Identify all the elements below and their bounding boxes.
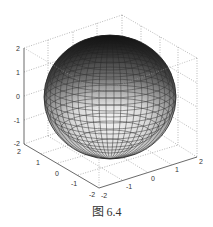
svg-text:-2: -2 [89, 191, 95, 198]
svg-text:-2: -2 [101, 192, 107, 199]
y-axis-ticks: 2 1 0 -1 -2 [17, 148, 95, 198]
svg-text:0: 0 [151, 175, 155, 182]
svg-text:-1: -1 [71, 180, 77, 187]
svg-text:1: 1 [36, 159, 40, 166]
svg-text:-1: -1 [126, 183, 132, 190]
x-axis-ticks: -2 -1 0 1 2 [101, 158, 203, 199]
svg-text:0: 0 [55, 170, 59, 177]
z-axis-ticks: 2 1 0 -1 -2 [14, 45, 20, 147]
sphere-surface-plot: 2 1 0 -1 -2 2 1 0 -1 -2 -2 -1 0 1 2 [0, 0, 213, 227]
svg-text:2: 2 [199, 158, 203, 165]
svg-text:-2: -2 [14, 140, 20, 147]
svg-text:1: 1 [16, 69, 20, 76]
sphere-surface [44, 35, 176, 159]
svg-text:-1: -1 [14, 117, 20, 124]
svg-text:2: 2 [17, 148, 21, 155]
svg-text:2: 2 [16, 45, 20, 52]
figure-caption: 图 6.4 [0, 202, 213, 220]
svg-text:1: 1 [175, 166, 179, 173]
svg-text:0: 0 [16, 93, 20, 100]
